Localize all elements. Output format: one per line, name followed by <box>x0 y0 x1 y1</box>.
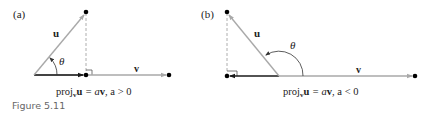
formula-b: projvu = av, a < 0 <box>283 86 358 99</box>
dot-projection <box>84 73 89 78</box>
dot-projection <box>225 74 230 79</box>
dot-u-tip <box>84 10 89 15</box>
angle-arc <box>50 58 57 75</box>
label-theta: θ <box>59 55 65 67</box>
panel-a-label: (a) <box>13 8 26 21</box>
figure-caption: Figure 5.11 <box>12 100 65 111</box>
formula-a: projvu = av, a > 0 <box>56 86 131 99</box>
label-v: v <box>134 63 139 74</box>
label-theta: θ <box>290 39 296 51</box>
dot-v-tip <box>167 73 172 78</box>
panel-b-label: (b) <box>201 8 214 21</box>
label-u: u <box>254 27 260 39</box>
panel-b: (b) u θ v projvu = av, a < 0 <box>201 8 417 99</box>
vector-u <box>229 15 279 76</box>
label-v: v <box>356 64 361 75</box>
panel-a: (a) u θ v projvu = av, a > 0 <box>13 8 171 99</box>
angle-arc <box>266 51 303 76</box>
dot-v-tip <box>413 74 418 79</box>
label-u: u <box>53 27 59 39</box>
dot-u-tip <box>225 10 230 15</box>
